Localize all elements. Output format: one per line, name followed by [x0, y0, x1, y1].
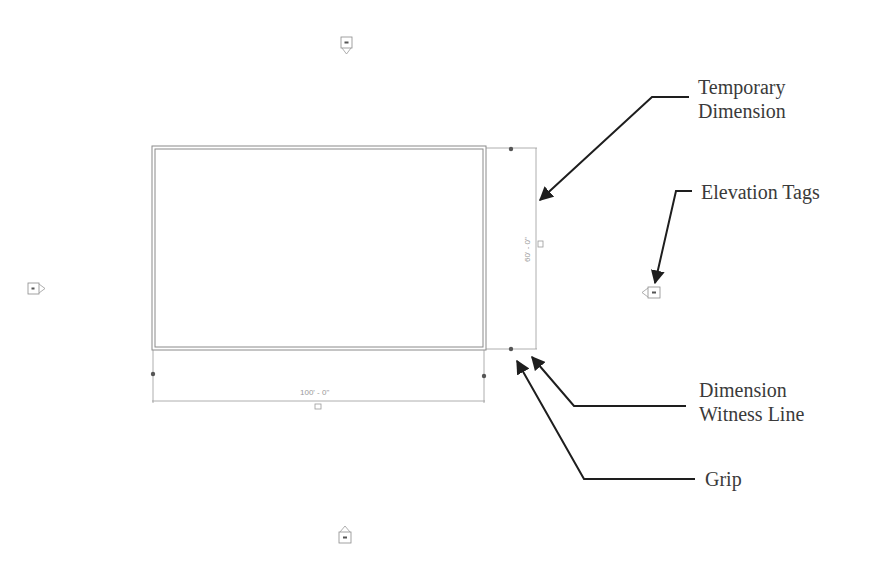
lock-icon[interactable]	[538, 241, 543, 247]
vertical-dimension-value[interactable]: 60' - 0"	[523, 237, 532, 262]
callout-text-line: Temporary	[698, 75, 786, 99]
grip-handle[interactable]	[509, 347, 513, 351]
elevation-tag-south-icon[interactable]	[339, 526, 351, 543]
elevation-tags-leader-arrow	[655, 191, 692, 283]
temporary-dimension-leader-arrow	[540, 97, 689, 200]
callout-temporary-dimension: Temporary Dimension	[698, 75, 786, 123]
grip-handle[interactable]	[509, 147, 513, 151]
callout-dimension-witness-line: Dimension Witness Line	[699, 378, 804, 426]
elevation-tag-east-icon[interactable]	[642, 287, 660, 298]
horizontal-dimension-value[interactable]: 100' - 0"	[300, 388, 329, 397]
elevation-tag-north-icon[interactable]	[341, 37, 352, 54]
grip-handle[interactable]	[151, 372, 155, 376]
elevation-tag-west-icon[interactable]	[28, 283, 45, 294]
callout-text-line: Witness Line	[699, 402, 804, 426]
grip-handle[interactable]	[482, 374, 486, 378]
grip-leader-arrow	[517, 361, 695, 479]
wall-rectangle[interactable]	[152, 146, 486, 350]
witness-line-leader-arrow	[532, 357, 686, 406]
callout-text-line: Dimension	[698, 99, 786, 123]
lock-icon[interactable]	[315, 404, 321, 409]
callout-text-line: Grip	[705, 467, 742, 491]
callout-elevation-tags: Elevation Tags	[701, 180, 820, 204]
callout-grip: Grip	[705, 467, 742, 491]
callout-text-line: Elevation Tags	[701, 180, 820, 204]
callout-text-line: Dimension	[699, 378, 804, 402]
